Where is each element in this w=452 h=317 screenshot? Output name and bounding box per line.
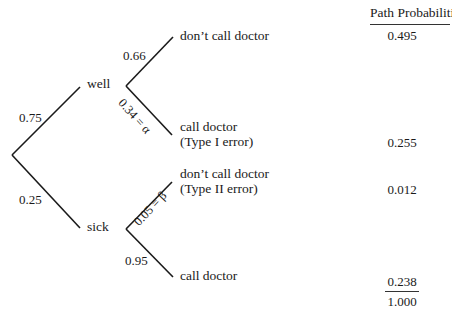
leaf-well-call: call doctor — [180, 119, 237, 134]
path-prob-total: 1.000 — [382, 294, 422, 310]
path-prob-4: 0.238 — [382, 274, 422, 290]
path-prob-1: 0.495 — [382, 28, 422, 44]
leaf-well-dont-call: don’t call doctor — [180, 28, 269, 43]
node-sick: sick — [87, 219, 109, 234]
prob-well-dont-call: 0.66 — [123, 48, 146, 63]
leaf-well-call-type1: (Type I error) — [180, 134, 253, 149]
path-prob-3: 0.012 — [382, 182, 422, 198]
prob-well: 0.75 — [19, 110, 42, 125]
leaf-sick-dont-call-type2: (Type II error) — [180, 181, 258, 196]
node-well: well — [87, 76, 110, 91]
leaf-sick-call: call doctor — [180, 268, 237, 283]
sum-divider — [385, 291, 419, 292]
path-prob-2: 0.255 — [382, 135, 422, 151]
path-probabilities-header: Path Probabilities — [370, 5, 450, 25]
leaf-sick-dont-call: don’t call doctor — [180, 166, 269, 181]
prob-sick: 0.25 — [19, 192, 42, 207]
prob-sick-call: 0.95 — [125, 253, 148, 268]
